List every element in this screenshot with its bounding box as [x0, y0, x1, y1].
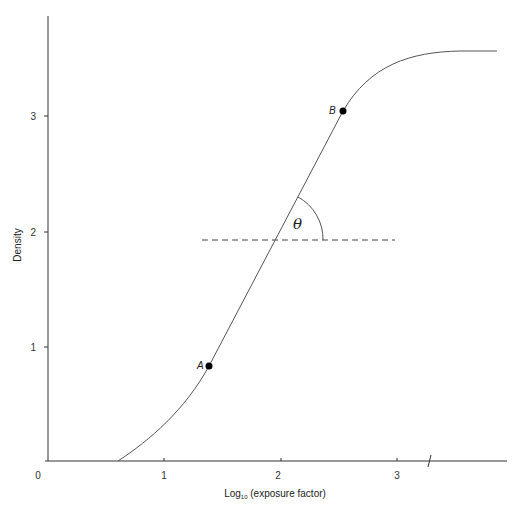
x-axis-label-rest: (exposure factor) — [248, 488, 326, 499]
x-tick-label-1: 1 — [161, 470, 167, 481]
x-axis-label-main: Log — [224, 488, 241, 499]
x-axis-label: Log10 (exposure factor) — [224, 488, 326, 500]
y-tick-label-1: 1 — [30, 342, 36, 353]
y-axis-label: Density — [12, 228, 23, 261]
x-tick-label-0: 0 — [35, 470, 41, 481]
y-tick-label-2: 2 — [30, 227, 36, 238]
point-b-label: B — [329, 105, 336, 116]
y-ticks — [44, 116, 48, 347]
x-tick-label-3: 3 — [394, 470, 400, 481]
characteristic-curve — [118, 51, 497, 461]
point-b-marker — [340, 108, 347, 115]
x-tick-label-2: 2 — [275, 470, 281, 481]
point-a-label: A — [196, 360, 204, 371]
y-tick-label-3: 3 — [30, 111, 36, 122]
characteristic-curve-chart: 1 2 3 0 1 2 3 Density Log10 (exposure fa… — [0, 0, 523, 508]
theta-label: θ — [293, 215, 302, 233]
point-a-marker — [206, 363, 213, 370]
